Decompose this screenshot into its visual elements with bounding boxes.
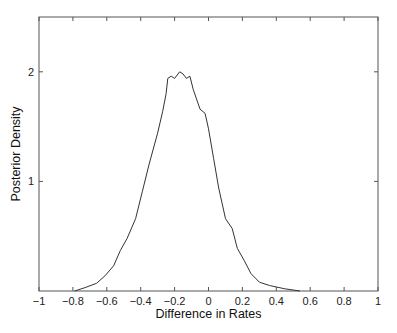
axis-ticks	[39, 17, 378, 291]
x-tick-label: 0.8	[336, 295, 351, 307]
x-tick-label: 0.6	[303, 295, 318, 307]
x-tick-label: −0.6	[96, 295, 118, 307]
density-plot: −1−0.8−0.6−0.4−0.200.20.40.60.81 12 Diff…	[0, 0, 397, 333]
x-tick-label: 0	[205, 295, 211, 307]
x-tick-label: 0.2	[235, 295, 250, 307]
x-tick-label: −1	[33, 295, 46, 307]
x-tick-label: −0.2	[164, 295, 186, 307]
y-tick-label: 1	[28, 175, 34, 187]
x-tick-label: 0.4	[269, 295, 284, 307]
x-tick-label: 1	[375, 295, 381, 307]
axes-frame	[39, 17, 378, 291]
density-curve	[75, 72, 300, 291]
x-axis-label: Difference in Rates	[155, 307, 261, 321]
y-tick-labels: 12	[28, 66, 34, 188]
y-axis-label: Posterior Density	[9, 106, 23, 202]
y-tick-label: 2	[28, 66, 34, 78]
axes-box	[39, 17, 378, 291]
x-tick-labels: −1−0.8−0.6−0.4−0.200.20.40.60.81	[33, 295, 381, 307]
x-tick-label: −0.8	[62, 295, 84, 307]
x-tick-label: −0.4	[130, 295, 152, 307]
